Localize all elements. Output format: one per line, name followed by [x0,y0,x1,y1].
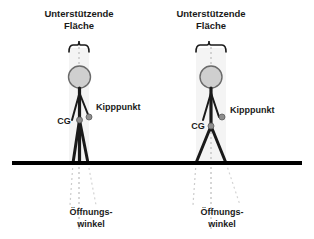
head-circle-icon-right [200,66,222,88]
opening-angle-label-right-line2: winkel [207,219,236,229]
opening-angle-ray-b-left [88,163,96,205]
head-circle-icon-left [69,66,91,88]
tipping-point-label-left: Kipppunkt [96,102,141,112]
opening-angle-label-left-line1: Öffnungs- [70,207,113,217]
center-of-gravity-label-left: CG [57,116,71,126]
support-area-title-right-line2: Fläche [196,20,226,31]
figure-narrow-stance [69,41,97,230]
opening-angle-ray-b-right [226,163,240,205]
support-area-title-right-line1: Unterstützende [176,8,245,19]
tipping-point-label-right: Kipppunkt [230,105,275,115]
opening-angle-ray-a-left [70,163,73,205]
opening-angle-label-left-line2: winkel [76,219,105,229]
opening-angle-label-right-line1: Öffnungs- [201,207,244,217]
opening-angle-ray-a-right [193,163,196,205]
tipping-point-dot-icon-left [86,114,92,120]
center-of-gravity-dot-icon-left [77,117,83,123]
center-of-gravity-label-right: CG [191,121,205,131]
support-area-title-left-line2: Fläche [64,20,94,31]
stability-diagram: Unterstützende Fläche Unterstützende Flä… [0,0,314,239]
support-area-title-left-line1: Unterstützende [44,8,113,19]
figure-wide-stance [193,41,240,230]
diagram-canvas: Unterstützende Fläche Unterstützende Flä… [0,0,314,239]
tipping-point-dot-icon-right [219,114,225,120]
center-of-gravity-dot-icon-right [208,123,214,129]
